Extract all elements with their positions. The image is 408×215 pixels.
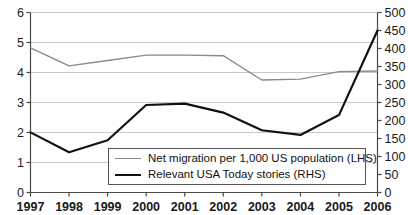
x-axis-tick-label: 1999 — [88, 201, 128, 214]
x-axis-tick-label: 2000 — [126, 201, 166, 214]
x-axis-tick-label: 2003 — [242, 201, 282, 214]
y-axis-left-tick-label: 3 — [2, 97, 24, 110]
legend-item-net-migration: Net migration per 1,000 US population (L… — [115, 151, 359, 167]
x-axis-tick-label: 1997 — [11, 201, 51, 214]
chart-legend: Net migration per 1,000 US population (L… — [108, 148, 366, 185]
legend-label: Net migration per 1,000 US population (L… — [148, 153, 377, 165]
y-axis-right-tick-label: 300 — [385, 79, 408, 92]
y-axis-left-tick-label: 4 — [2, 67, 24, 80]
y-axis-right-tick-label: 200 — [385, 115, 408, 128]
series-line — [31, 48, 378, 80]
x-axis-tick-label: 2002 — [203, 201, 243, 214]
y-axis-right-tick-label: 250 — [385, 97, 408, 110]
legend-item-usa-today-stories: Relevant USA Today stories (RHS) — [115, 167, 359, 183]
x-axis-tick-label: 2005 — [319, 201, 359, 214]
legend-line-icon-gray — [115, 158, 141, 159]
y-axis-right-tick-label: 400 — [385, 43, 408, 56]
y-axis-left-tick-label: 0 — [2, 187, 24, 200]
y-axis-left-tick-label: 1 — [2, 157, 24, 170]
x-axis-tick-label: 1998 — [49, 201, 89, 214]
y-axis-right-tick-label: 350 — [385, 61, 408, 74]
legend-label: Relevant USA Today stories (RHS) — [148, 169, 325, 181]
y-axis-left-tick-label: 2 — [2, 127, 24, 140]
y-axis-right-tick-label: 50 — [385, 169, 408, 182]
series-line — [31, 31, 378, 153]
y-axis-right-tick-label: 500 — [385, 7, 408, 20]
y-axis-right-tick-label: 450 — [385, 25, 408, 38]
y-axis-right-tick-label: 150 — [385, 133, 408, 146]
y-axis-left-tick-label: 6 — [2, 7, 24, 20]
x-axis-tick-label: 2006 — [358, 201, 398, 214]
chart-container: 0123456 050100150200250300350400450500 1… — [0, 0, 408, 215]
y-axis-left-tick-label: 5 — [2, 37, 24, 50]
legend-line-icon-black — [115, 174, 141, 176]
x-axis-tick-label: 2001 — [165, 201, 205, 214]
y-axis-right-tick-label: 0 — [385, 187, 408, 200]
x-axis-tick-label: 2004 — [280, 201, 320, 214]
y-axis-right-tick-label: 100 — [385, 151, 408, 164]
